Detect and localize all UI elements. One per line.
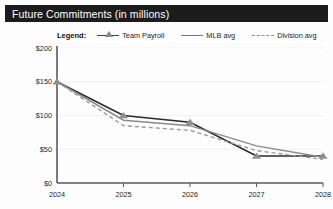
chart-card: Future Commitments (in millions) Legend:… [0, 0, 333, 209]
y-axis-tick-label: $50 [40, 145, 52, 154]
legend-item-team-payroll[interactable]: Team Payroll [97, 31, 164, 40]
legend-marker-solid-line-icon [181, 31, 203, 40]
x-axis-tick-label: 2024 [49, 190, 65, 199]
page-title: Future Commitments (in millions) [5, 8, 169, 20]
legend-item-label: Division avg [277, 31, 316, 40]
y-axis-tick-label: $200 [36, 44, 52, 53]
legend-item-division-avg[interactable]: Division avg [252, 31, 316, 40]
y-axis-tick-label: $100 [36, 111, 52, 120]
x-axis-tick-label: 2026 [182, 190, 198, 199]
y-axis-tick-label: $150 [36, 77, 52, 86]
legend-marker-triangle-icon [97, 31, 119, 40]
legend-marker-dashed-line-icon [252, 31, 274, 40]
chart-legend: Legend: Team Payroll MLB avg Division av… [57, 29, 317, 42]
legend-item-label: MLB avg [206, 31, 235, 40]
legend-item-mlb-avg[interactable]: MLB avg [181, 31, 235, 40]
y-axis-tick-label: $0 [44, 179, 52, 188]
x-axis-tick-label: 2028 [315, 190, 331, 199]
x-axis-tick-label: 2027 [248, 190, 264, 199]
legend-label: Legend: [57, 31, 86, 40]
x-axis-tick-label: 2025 [115, 190, 131, 199]
chart-plot-area: $0$50$100$150$20020242025202620272028 [0, 42, 333, 202]
legend-item-label: Team Payroll [122, 31, 164, 40]
line-chart-svg: $0$50$100$150$20020242025202620272028 [0, 42, 333, 202]
chart-title-bar: Future Commitments (in millions) [5, 5, 328, 22]
